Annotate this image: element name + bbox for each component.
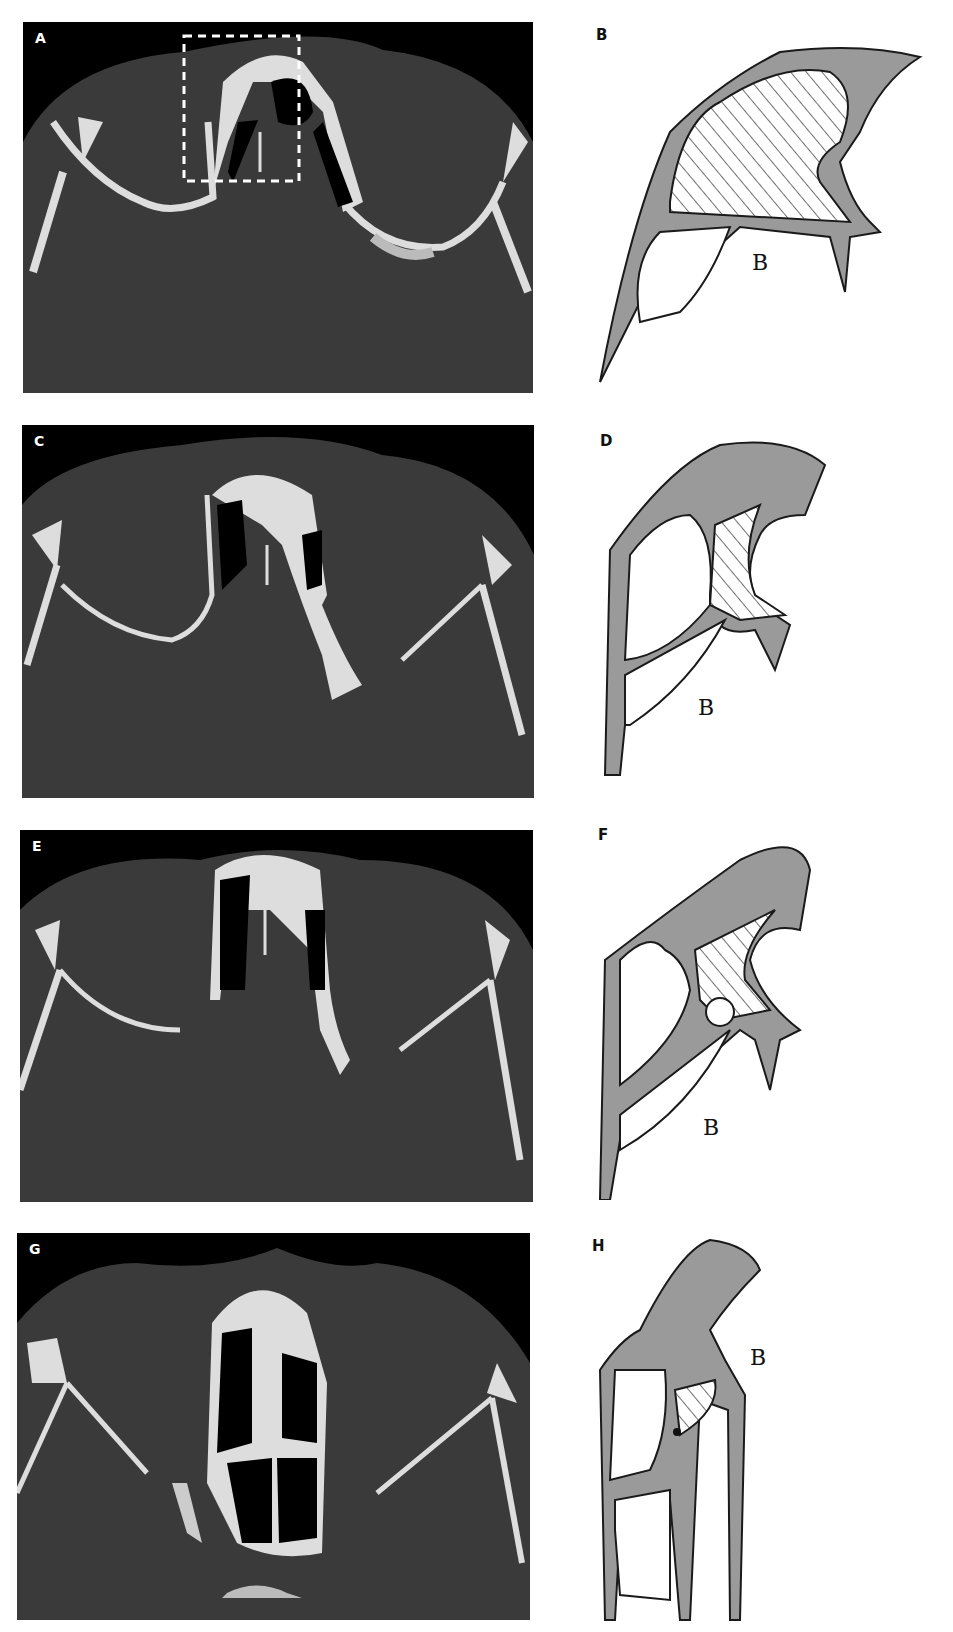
ct-panel-e: E — [20, 830, 533, 1202]
panel-label-a: A — [35, 30, 46, 46]
ct-panel-g: G — [17, 1233, 530, 1620]
annotation-h: B — [750, 1345, 766, 1370]
ct-image-g — [17, 1233, 530, 1620]
roi-box — [23, 22, 533, 393]
panel-label-c: C — [34, 433, 44, 449]
drawing-panel-h: H B — [560, 1200, 860, 1632]
drawing-panel-d: D B — [560, 405, 860, 780]
sinus-drawing-d — [560, 405, 860, 780]
drawing-panel-b: B B — [560, 22, 953, 392]
ct-image-e — [20, 830, 533, 1202]
annotation-f: B — [703, 1115, 719, 1140]
sinus-drawing-f — [560, 820, 860, 1210]
panel-label-e: E — [32, 838, 42, 854]
ct-panel-a: A — [23, 22, 533, 393]
annotation-d: B — [698, 695, 714, 720]
ct-image-c — [22, 425, 534, 798]
annotation-b: B — [752, 250, 768, 275]
drawing-panel-f: F B — [560, 820, 860, 1210]
sinus-drawing-b — [560, 22, 953, 392]
panel-label-g: G — [29, 1241, 41, 1257]
ct-panel-c: C — [22, 425, 534, 798]
sinus-drawing-h — [560, 1200, 860, 1632]
